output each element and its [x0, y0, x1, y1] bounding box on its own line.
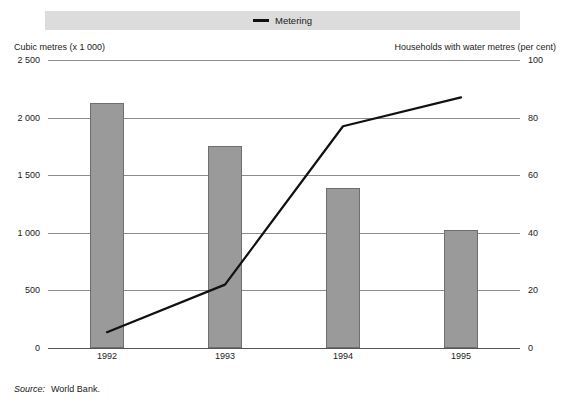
metering-line-path — [107, 97, 461, 332]
y-axis-right-tick-label: 80 — [528, 114, 538, 123]
right-axis-caption: Households with water metres (per cent) — [394, 43, 556, 52]
line-series-metering — [48, 60, 520, 348]
y-axis-left-tick-label: 500 — [25, 286, 40, 295]
x-axis-tick-label: 1993 — [215, 352, 235, 361]
y-axis-right-tick-label: 100 — [528, 56, 543, 65]
source-label: Source: — [14, 384, 45, 394]
y-axis-right-tick-label: 40 — [528, 229, 538, 238]
chart-plot-area: 05001 0001 5002 0002 5000204060801001992… — [48, 60, 520, 348]
gridline — [48, 348, 520, 349]
source-note: Source:World Bank. — [14, 385, 100, 394]
left-axis-caption: Cubic metres (x 1 000) — [14, 43, 105, 52]
y-axis-right-tick-label: 0 — [528, 344, 533, 353]
y-axis-right-tick-label: 60 — [528, 171, 538, 180]
y-axis-right-tick-label: 20 — [528, 286, 538, 295]
y-axis-left-tick-label: 1 500 — [17, 171, 40, 180]
y-axis-left-tick-label: 2 000 — [17, 114, 40, 123]
y-axis-left-tick-label: 2 500 — [17, 56, 40, 65]
x-axis-tick-label: 1992 — [97, 352, 117, 361]
y-axis-left-tick-label: 1 000 — [17, 229, 40, 238]
legend-entry-metering: Metering — [45, 11, 520, 30]
x-axis-tick-label: 1995 — [451, 352, 471, 361]
x-axis-tick-label: 1994 — [333, 352, 353, 361]
legend-label: Metering — [275, 16, 312, 26]
source-value: World Bank. — [51, 384, 100, 394]
line-marker-icon — [253, 19, 269, 22]
legend-band: Metering — [45, 11, 520, 30]
y-axis-left-tick-label: 0 — [35, 344, 40, 353]
